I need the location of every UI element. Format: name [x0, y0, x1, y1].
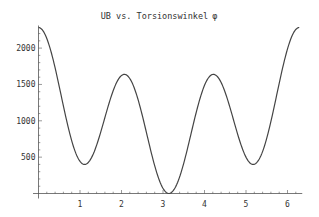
- y-tick-label: 2000: [16, 44, 35, 53]
- x-tick-label: 3: [161, 200, 166, 209]
- y-tick-label: 500: [21, 153, 36, 162]
- y-tick-label: 1000: [16, 117, 35, 126]
- title-symbol: φ: [212, 11, 217, 21]
- data-line-ub: [39, 28, 300, 194]
- x-tick-label: 5: [244, 200, 249, 209]
- y-tick-label: 1500: [16, 80, 35, 89]
- x-tick-label: 4: [202, 200, 207, 209]
- chart-title: UB vs. Torsionswinkelφ: [101, 11, 218, 21]
- line-chart: UB vs. Torsionswinkelφ 12345650010001500…: [0, 0, 319, 217]
- x-tick-label: 1: [78, 200, 83, 209]
- x-tick-label: 2: [119, 200, 124, 209]
- x-tick-label: 6: [285, 200, 290, 209]
